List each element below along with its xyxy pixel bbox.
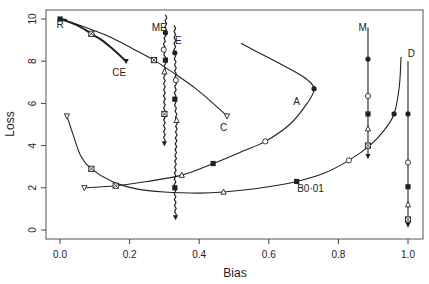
- open-down-triangle-marker: [224, 114, 229, 119]
- open-circle-marker: [161, 47, 166, 52]
- open-triangle-marker: [405, 202, 410, 207]
- x-tick-label: 0.0: [53, 249, 67, 260]
- curve-label-b001: B0·01: [297, 183, 324, 194]
- y-tick-label: 0: [27, 227, 38, 233]
- x-tick-label: 1.0: [401, 249, 415, 260]
- x-axis-label: Bias: [223, 266, 246, 280]
- x-tick-label: 0.8: [331, 249, 345, 260]
- crossed-square-marker: [89, 166, 94, 171]
- y-axis: 0246810: [27, 13, 46, 233]
- filled-square-marker: [365, 111, 370, 116]
- y-tick-label: 4: [27, 142, 38, 148]
- y-tick-label: 2: [27, 185, 38, 191]
- open-circle-marker: [365, 93, 370, 98]
- filled-circle-marker: [405, 111, 410, 116]
- open-triangle-marker: [162, 69, 167, 74]
- curve-label-a: A: [293, 96, 300, 107]
- curve-label-me: ME: [152, 22, 167, 33]
- filled-square-marker: [405, 184, 410, 189]
- filled-circle-marker: [365, 56, 370, 61]
- curve-c: [60, 19, 227, 116]
- x-axis: 0.00.20.40.60.81.0: [53, 239, 415, 260]
- crossed-square-marker: [89, 31, 94, 36]
- curve-label-c: C: [220, 122, 227, 133]
- open-down-triangle-marker: [64, 114, 69, 119]
- filled-circle-marker: [311, 86, 316, 91]
- filled-down-triangle-marker: [405, 223, 410, 228]
- curves: [60, 15, 408, 225]
- curve-label-m: M: [359, 22, 367, 33]
- y-tick-label: 6: [27, 100, 38, 106]
- crossed-square-marker: [405, 217, 410, 222]
- y-tick-label: 8: [27, 58, 38, 64]
- filled-down-triangle-marker: [173, 215, 178, 220]
- filled-down-triangle-marker: [124, 59, 129, 64]
- y-tick-label: 10: [27, 13, 38, 25]
- curve-labels: RCECMEEAB0·01MD: [56, 19, 415, 194]
- open-circle-marker: [173, 78, 178, 83]
- crossed-square-marker: [162, 111, 167, 116]
- y-axis-label: Loss: [3, 111, 17, 136]
- curve-a: [84, 43, 314, 188]
- bias-loss-chart: 0.00.20.40.60.81.0 0246810 RCECMEEAB0·01…: [0, 0, 429, 284]
- crossed-square-marker: [151, 58, 156, 63]
- plot-frame: [46, 10, 423, 239]
- filled-square-marker: [172, 185, 177, 190]
- curve-label-ce: CE: [112, 67, 126, 78]
- open-circle-marker: [405, 160, 410, 165]
- x-tick-label: 0.4: [192, 249, 206, 260]
- crossed-square-marker: [113, 183, 118, 188]
- filled-circle-marker: [391, 111, 396, 116]
- crossed-square-marker: [365, 143, 370, 148]
- curve-label-r: R: [56, 19, 63, 30]
- curve-label-e: E: [175, 35, 182, 46]
- open-circle-marker: [263, 139, 268, 144]
- open-circle-marker: [346, 158, 351, 163]
- open-triangle-marker: [174, 117, 179, 122]
- filled-square-marker: [163, 58, 168, 63]
- filled-down-triangle-marker: [162, 141, 167, 146]
- filled-circle-marker: [172, 50, 177, 55]
- x-tick-label: 0.6: [262, 249, 276, 260]
- open-triangle-marker: [365, 126, 370, 131]
- filled-square-marker: [211, 161, 216, 166]
- filled-down-triangle-marker: [365, 154, 370, 159]
- curve-label-d: D: [408, 48, 415, 59]
- filled-square-marker: [172, 97, 177, 102]
- x-tick-label: 0.2: [123, 249, 137, 260]
